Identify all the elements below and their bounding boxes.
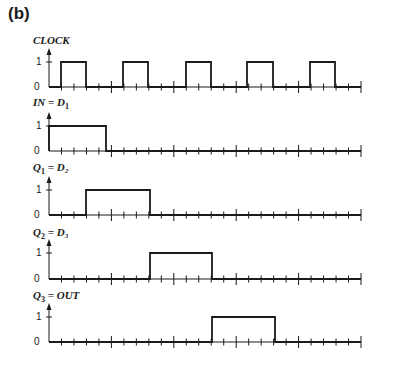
signal-q2-d3: [46, 239, 361, 285]
waveform: [49, 126, 361, 151]
waveform: [49, 253, 361, 279]
signal-q3-out: [46, 303, 361, 348]
waveform: [49, 190, 361, 215]
waveform: [49, 317, 361, 342]
arrow-up-icon: [47, 239, 52, 246]
signal-clock: [46, 48, 361, 93]
signal-in-d1: [46, 112, 361, 157]
arrow-up-icon: [47, 48, 52, 55]
timing-diagram: [0, 0, 411, 370]
arrow-up-icon: [47, 176, 52, 183]
arrow-up-icon: [47, 303, 52, 310]
arrow-up-icon: [47, 112, 52, 119]
signal-q1-d2: [46, 176, 361, 221]
waveform: [49, 62, 361, 87]
